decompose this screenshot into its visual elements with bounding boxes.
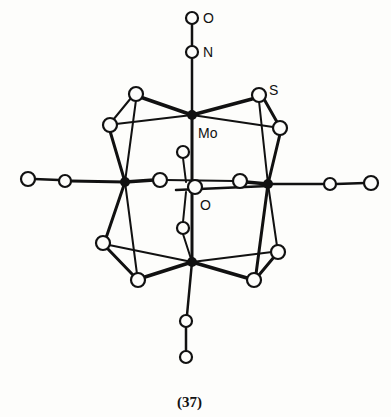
nitrogen-atom <box>186 46 198 58</box>
figure-caption: (37) <box>177 394 202 411</box>
molybdenum-atom <box>263 179 273 189</box>
molybdenum-atom <box>120 177 130 187</box>
molybdenum-atom <box>187 110 197 120</box>
label-nitrogen: N <box>203 44 213 60</box>
carbon-atom <box>59 175 71 187</box>
carbon-atom <box>177 222 189 234</box>
atoms <box>21 12 378 363</box>
sulfur-atom <box>252 88 266 102</box>
sulfur-atom <box>103 118 117 132</box>
carbon-atom <box>153 173 167 187</box>
molybdenum-atom <box>187 257 197 267</box>
molecular-structure-diagram: O N S Mo O (37) <box>0 0 391 417</box>
carbon-atom <box>180 315 192 327</box>
center-oxygen-atom <box>188 180 202 194</box>
oxygen-atom <box>364 176 378 190</box>
sulfur-atom <box>247 273 261 287</box>
sulfur-atom <box>96 236 110 250</box>
label-oxygen-center: O <box>200 197 211 213</box>
carbon-atom <box>233 174 247 188</box>
label-sulfur: S <box>269 82 278 98</box>
carbon-atom <box>177 146 189 158</box>
label-oxygen-top: O <box>203 10 214 26</box>
carbon-atom <box>324 178 336 190</box>
sulfur-atom <box>129 87 143 101</box>
label-molybdenum: Mo <box>198 125 218 141</box>
oxygen-atom <box>186 12 198 24</box>
sulfur-atom <box>271 245 285 259</box>
oxygen-atom <box>21 172 35 186</box>
oxygen-atom <box>180 351 192 363</box>
sulfur-atom <box>273 121 287 135</box>
sulfur-atom <box>131 273 145 287</box>
